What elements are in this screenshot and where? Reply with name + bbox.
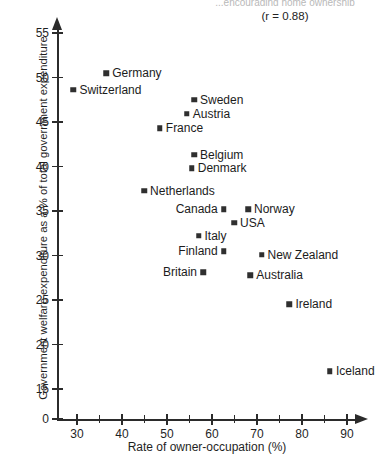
x-axis-minor-tick: [234, 415, 235, 423]
data-point-label: USA: [240, 217, 265, 229]
data-point-marker: [327, 368, 333, 374]
y-axis-tick: [52, 299, 63, 300]
x-axis-tick-label: 80: [295, 427, 308, 441]
data-point-marker: [191, 152, 197, 158]
y-axis-tick: [52, 166, 63, 167]
x-axis-minor-tick: [99, 415, 100, 423]
data-point-label: Iceland: [336, 365, 375, 377]
x-axis-tick: [301, 414, 302, 425]
data-point-marker: [245, 206, 251, 212]
data-point-label: Denmark: [198, 162, 247, 174]
y-axis-tick: [52, 121, 63, 122]
data-point-label: Belgium: [200, 149, 243, 161]
data-point-label: New Zealand: [268, 249, 339, 261]
data-point-marker: [196, 233, 202, 239]
x-axis-tick-label: 60: [205, 427, 218, 441]
x-axis-tick-label: 90: [340, 427, 353, 441]
data-point-label: Finland: [178, 245, 217, 257]
data-point-label: Italy: [205, 230, 227, 242]
y-axis-tick: [52, 388, 63, 389]
data-point-marker: [221, 206, 227, 212]
data-point-marker: [248, 272, 254, 278]
x-axis-tick: [346, 414, 347, 425]
x-axis-tick-label: 50: [160, 427, 173, 441]
x-axis-title: Rate of owner-occupation (%): [128, 440, 287, 454]
data-point-label: Ireland: [295, 298, 332, 310]
y-axis-tick: [52, 77, 63, 78]
data-point-marker: [200, 270, 206, 276]
y-axis-tick: [52, 255, 63, 256]
data-point-marker: [184, 111, 190, 117]
y-axis-tick: [52, 32, 63, 33]
x-axis-minor-tick: [279, 415, 280, 423]
x-axis-minor-tick: [324, 415, 325, 423]
data-point-label: Australia: [256, 269, 303, 281]
y-axis-arrow-icon: [52, 17, 62, 30]
y-axis-tick: [52, 418, 63, 419]
data-point-marker: [221, 248, 227, 254]
x-axis-tick-label: 30: [70, 427, 83, 441]
x-axis-minor-tick: [189, 415, 190, 423]
y-axis-tick: [52, 210, 63, 211]
chart-top-caption: ...encouraging home ownership: [185, 0, 380, 6]
x-axis-line: [57, 419, 357, 421]
data-point-marker: [259, 252, 265, 258]
data-point-label: Germany: [112, 67, 161, 79]
y-axis-tick: [52, 344, 63, 345]
data-point-label: Canada: [176, 203, 218, 215]
data-point-marker: [287, 302, 293, 308]
correlation-annotation: (r = 0.88): [262, 10, 309, 22]
data-point-marker: [141, 188, 147, 194]
x-axis-tick: [121, 414, 122, 425]
y-axis-tick-label: 0: [42, 413, 49, 425]
data-point-label: Sweden: [200, 94, 243, 106]
data-point-marker: [157, 125, 163, 131]
x-axis-tick: [76, 414, 77, 425]
data-point-label: Austria: [193, 108, 230, 120]
data-point-marker: [104, 70, 110, 76]
data-point-label: Norway: [254, 203, 295, 215]
y-axis-title: Government welfare expenditure as a % of…: [37, 23, 49, 413]
data-point-label: France: [166, 122, 203, 134]
data-point-marker: [231, 220, 237, 226]
data-point-marker: [191, 97, 197, 103]
x-axis-tick-label: 40: [115, 427, 128, 441]
data-point-label: Switzerland: [79, 84, 141, 96]
x-axis-tick: [211, 414, 212, 425]
x-axis-arrow-icon: [355, 414, 368, 424]
data-point-label: Britain: [163, 266, 197, 278]
data-point-marker: [71, 87, 77, 93]
x-axis-tick: [256, 414, 257, 425]
x-axis-tick-label: 70: [250, 427, 263, 441]
data-point-label: Netherlands: [150, 185, 215, 197]
data-point-marker: [189, 166, 195, 172]
x-axis-tick: [166, 414, 167, 425]
x-axis-minor-tick: [144, 415, 145, 423]
y-axis-line: [57, 28, 59, 420]
